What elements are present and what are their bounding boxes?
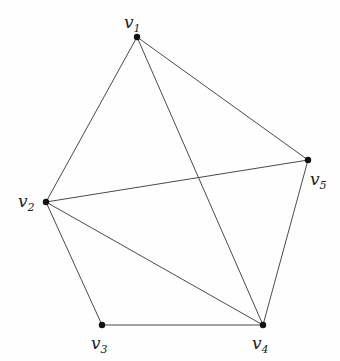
- edge-v1-v4: [137, 37, 263, 325]
- vertex-label-v4: v4: [252, 333, 269, 356]
- vertex-label-v3: v3: [91, 333, 108, 356]
- vertex-label-v2: v2: [18, 191, 35, 214]
- vertex-v5: [305, 157, 311, 163]
- edge-v2-v3: [46, 202, 102, 325]
- edge-v2-v5: [46, 160, 308, 202]
- labels-group: v1v2v3v4v5: [18, 12, 327, 356]
- vertex-v3: [99, 322, 105, 328]
- vertex-label-v1: v1: [124, 12, 141, 35]
- vertex-v4: [260, 322, 266, 328]
- edge-v4-v5: [263, 160, 308, 325]
- vertex-label-v5: v5: [310, 169, 327, 192]
- graph-diagram: v1v2v3v4v5: [0, 0, 340, 361]
- edge-v1-v5: [137, 37, 308, 160]
- edges-group: [46, 37, 308, 325]
- graph-svg: v1v2v3v4v5: [0, 0, 340, 361]
- edge-v2-v4: [46, 202, 263, 325]
- edge-v1-v2: [46, 37, 137, 202]
- vertex-v2: [43, 199, 49, 205]
